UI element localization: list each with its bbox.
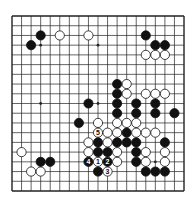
move-number-label: 4 bbox=[86, 158, 90, 165]
black-stone bbox=[122, 128, 131, 137]
black-stone: 2 bbox=[103, 157, 112, 166]
white-stone bbox=[84, 138, 93, 147]
black-stone bbox=[132, 99, 141, 108]
white-stone bbox=[113, 157, 122, 166]
black-stone bbox=[122, 138, 131, 147]
move-number-label: 1 bbox=[96, 158, 100, 165]
white-stone bbox=[122, 118, 131, 127]
black-stone bbox=[93, 167, 102, 176]
white-stone bbox=[160, 157, 169, 166]
white-stone bbox=[141, 50, 150, 59]
black-stone bbox=[103, 148, 112, 157]
black-stone bbox=[113, 89, 122, 98]
go-board: 54123 bbox=[0, 0, 195, 201]
black-stone bbox=[93, 148, 102, 157]
white-stone bbox=[55, 31, 64, 40]
move-number-label: 2 bbox=[106, 158, 110, 165]
black-stone bbox=[113, 109, 122, 118]
white-stone bbox=[141, 148, 150, 157]
black-stone bbox=[113, 138, 122, 147]
white-stone bbox=[132, 118, 141, 127]
white-stone bbox=[160, 148, 169, 157]
white-stone: 5 bbox=[93, 128, 102, 137]
black-stone bbox=[132, 109, 141, 118]
star-point bbox=[154, 160, 157, 163]
black-stone bbox=[160, 41, 169, 50]
black-stone bbox=[113, 79, 122, 88]
black-stone bbox=[151, 41, 160, 50]
white-stone bbox=[93, 118, 102, 127]
black-stone bbox=[74, 118, 83, 127]
white-stone bbox=[160, 89, 169, 98]
white-stone bbox=[151, 89, 160, 98]
white-stone bbox=[113, 128, 122, 137]
white-stone bbox=[103, 138, 112, 147]
black-stone bbox=[141, 31, 150, 40]
white-stone bbox=[103, 128, 112, 137]
black-stone bbox=[141, 167, 150, 176]
black-stone bbox=[132, 148, 141, 157]
black-stone bbox=[132, 157, 141, 166]
black-stone bbox=[113, 99, 122, 108]
star-point bbox=[97, 102, 100, 105]
black-stone bbox=[27, 41, 36, 50]
white-stone bbox=[36, 167, 45, 176]
white-stone: 3 bbox=[103, 167, 112, 176]
black-stone bbox=[160, 167, 169, 176]
move-number-label: 5 bbox=[96, 129, 100, 136]
star-point bbox=[39, 44, 42, 47]
white-stone bbox=[141, 128, 150, 137]
black-stone bbox=[132, 138, 141, 147]
black-stone bbox=[93, 138, 102, 147]
white-stone bbox=[122, 89, 131, 98]
white-stone bbox=[84, 31, 93, 40]
white-stone bbox=[113, 148, 122, 157]
black-stone bbox=[84, 99, 93, 108]
white-stone: 1 bbox=[93, 157, 102, 166]
white-stone bbox=[113, 118, 122, 127]
black-stone bbox=[151, 167, 160, 176]
white-stone bbox=[84, 148, 93, 157]
black-stone bbox=[46, 157, 55, 166]
white-stone bbox=[141, 157, 150, 166]
white-stone bbox=[122, 79, 131, 88]
white-stone bbox=[132, 128, 141, 137]
black-stone bbox=[151, 109, 160, 118]
white-stone bbox=[160, 50, 169, 59]
white-stone bbox=[151, 128, 160, 137]
black-stone: 4 bbox=[84, 157, 93, 166]
white-stone bbox=[151, 50, 160, 59]
black-stone bbox=[160, 138, 169, 147]
move-number-label: 3 bbox=[106, 168, 110, 175]
black-stone bbox=[36, 31, 45, 40]
white-stone bbox=[141, 89, 150, 98]
white-stone bbox=[27, 167, 36, 176]
star-point bbox=[97, 44, 100, 47]
black-stone bbox=[151, 99, 160, 108]
star-point bbox=[39, 102, 42, 105]
black-stone bbox=[170, 109, 179, 118]
black-stone bbox=[36, 157, 45, 166]
white-stone bbox=[17, 148, 26, 157]
